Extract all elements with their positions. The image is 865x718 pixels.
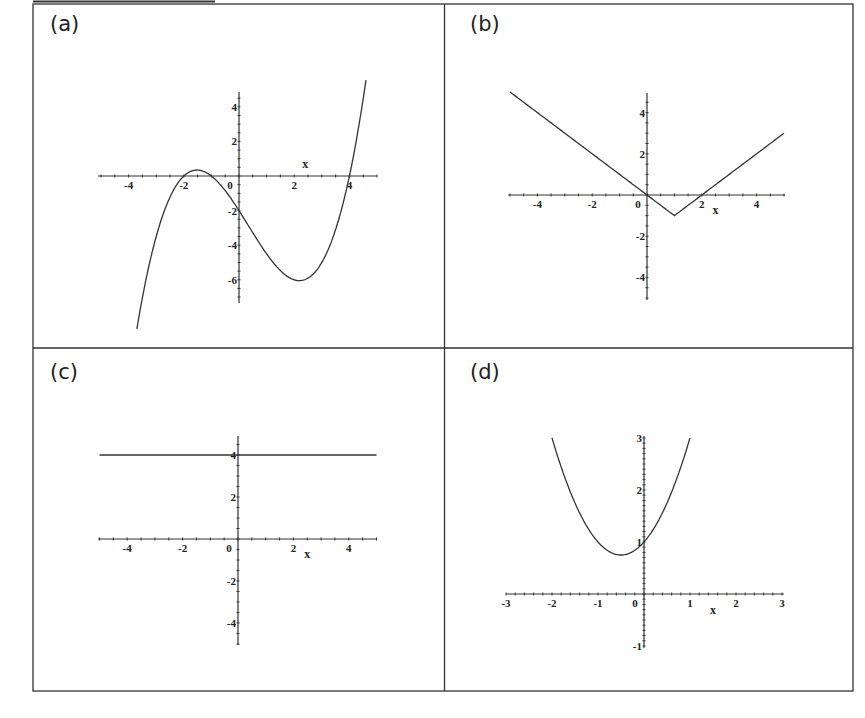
- x-tick-label: 4: [754, 198, 760, 210]
- x-tick-label: 0: [632, 597, 638, 609]
- plot-b: -4-2024-4-224x: [508, 92, 785, 300]
- x-axis-label: x: [304, 547, 310, 561]
- y-tick-label: 4: [232, 101, 238, 113]
- y-tick-label: -4: [227, 617, 237, 629]
- x-tick-label: -4: [533, 198, 543, 210]
- y-tick-label: -4: [228, 239, 238, 251]
- figure-canvas: -4-2024-6-4-224x-4-2024-4-224x-4-2024-4-…: [0, 0, 865, 718]
- x-tick-label: 2: [699, 198, 705, 210]
- panel-label-b: (b): [470, 12, 500, 36]
- x-tick-label: 1: [687, 597, 693, 609]
- y-tick-label: 3: [637, 432, 643, 444]
- x-axis-label: x: [713, 203, 719, 217]
- x-tick-label: -4: [124, 179, 134, 191]
- y-tick-label: -6: [228, 274, 238, 286]
- x-tick-label: 2: [291, 179, 297, 191]
- function-curve: [137, 80, 366, 329]
- plot-d: -3-2-10123-1123x: [501, 432, 785, 652]
- x-tick-label: 0: [227, 179, 233, 191]
- x-tick-label: 0: [635, 198, 641, 210]
- x-tick-label: 0: [226, 542, 232, 554]
- function-curve: [552, 438, 690, 555]
- y-tick-label: -2: [636, 230, 646, 242]
- panel-label-c: (c): [50, 360, 78, 384]
- y-tick-label: 2: [232, 135, 238, 147]
- panel-label-a: (a): [50, 12, 79, 36]
- x-tick-label: -4: [123, 542, 133, 554]
- x-axis-label: x: [710, 603, 716, 617]
- y-tick-label: -4: [636, 271, 646, 283]
- y-tick-label: 4: [640, 107, 646, 119]
- y-tick-label: 2: [231, 491, 237, 503]
- y-tick-label: 2: [637, 484, 643, 496]
- x-tick-label: 3: [779, 597, 785, 609]
- x-tick-label: 2: [291, 542, 297, 554]
- x-tick-label: -2: [178, 542, 188, 554]
- y-tick-label: 2: [640, 148, 646, 160]
- x-tick-label: 4: [346, 542, 352, 554]
- x-axis-label: x: [302, 157, 308, 171]
- x-tick-label: 2: [733, 597, 739, 609]
- plot-c: -4-2024-4-224x: [98, 436, 377, 645]
- panel-grid: [33, 4, 853, 691]
- x-tick-label: -1: [593, 597, 602, 609]
- y-tick-label: -1: [633, 640, 642, 652]
- plot-a: -4-2024-6-4-224x: [98, 80, 377, 329]
- x-tick-label: -3: [501, 597, 511, 609]
- x-tick-label: -2: [588, 198, 598, 210]
- y-tick-label: -2: [227, 575, 237, 587]
- x-tick-label: -2: [179, 179, 189, 191]
- panel-label-d: (d): [470, 360, 500, 384]
- x-tick-label: -2: [547, 597, 557, 609]
